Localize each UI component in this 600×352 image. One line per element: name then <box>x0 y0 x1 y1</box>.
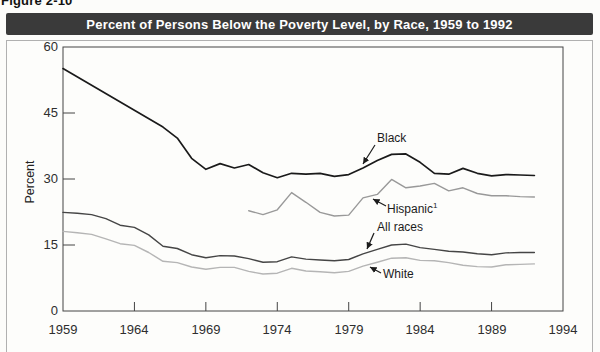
x-tick-label-1969: 1969 <box>184 322 228 338</box>
y-tick-label-30: 30 <box>28 171 58 187</box>
all-races-series-label: All races <box>377 220 423 234</box>
black-series-label-text: Black <box>377 131 406 145</box>
y-tick-label-60: 60 <box>28 39 58 55</box>
x-tick-label-1989: 1989 <box>470 322 514 338</box>
hispanic-footnote-marker: 1 <box>433 201 437 210</box>
y-tick-label-0: 0 <box>28 303 58 319</box>
black-series-label: Black <box>377 131 406 145</box>
line-chart-canvas <box>0 0 600 352</box>
hispanic-series-label-text: Hispanic <box>387 202 433 216</box>
black-arrow <box>363 145 375 164</box>
x-tick-label-1979: 1979 <box>327 322 371 338</box>
hispanic-series-label: Hispanic1 <box>387 199 437 216</box>
x-tick-label-1994: 1994 <box>541 322 585 338</box>
y-tick-label-45: 45 <box>28 105 58 121</box>
all-races-arrow <box>367 233 374 249</box>
x-tick-label-1984: 1984 <box>398 322 442 338</box>
y-tick-label-15: 15 <box>28 237 58 253</box>
white-series-label-text: White <box>383 267 414 281</box>
series-lines <box>63 69 534 274</box>
white-arrow <box>370 267 381 273</box>
x-tick-label-1964: 1964 <box>112 322 156 338</box>
line-black <box>63 69 534 178</box>
figure: Figure 2-10 Percent of Persons Below the… <box>0 0 600 352</box>
white-series-label: White <box>383 267 414 281</box>
hispanic-arrow <box>373 199 386 206</box>
x-tick-label-1974: 1974 <box>255 322 299 338</box>
all-races-series-label-text: All races <box>377 220 423 234</box>
x-tick-label-1959: 1959 <box>41 322 85 338</box>
annotation-arrows <box>363 145 386 273</box>
line-all-races <box>63 212 534 262</box>
